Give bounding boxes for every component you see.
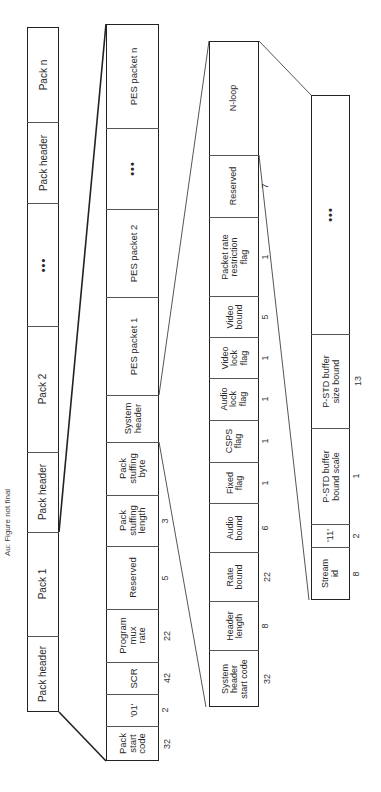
field-label: CSPS flag — [209, 420, 259, 462]
field-label: Pack header — [27, 122, 59, 203]
field-label: '01' — [106, 694, 159, 726]
field-label: PES packet 2 — [106, 209, 159, 297]
field-label: Audio lock flag — [209, 378, 259, 420]
bit-width-label: 1 — [351, 473, 361, 478]
field-label: Packet rate restriction flag — [209, 217, 259, 296]
field-label: System header start code — [209, 650, 259, 707]
mpeg-program-stream-diagram: Au: Figure not final Pack nPack header••… — [0, 0, 381, 792]
bit-width-label: 2 — [160, 707, 170, 712]
field-label: Pack 2 — [27, 326, 59, 452]
bit-width-label: 42 — [162, 673, 172, 683]
field-label: SCR — [106, 662, 159, 694]
field-label: ••• — [311, 95, 350, 334]
field-label: Program mux rate — [106, 609, 159, 662]
field-label: Pack stuffing length — [106, 495, 159, 546]
bit-width-label: 3 — [160, 518, 170, 523]
field-label: System header — [106, 395, 159, 442]
field-label: ••• — [106, 128, 159, 209]
expansion-connector-line — [259, 41, 311, 95]
bit-width-label: 22 — [262, 571, 272, 581]
expansion-connector-line — [59, 24, 106, 532]
bit-width-label: 5 — [260, 314, 270, 319]
field-label: PES packet 1 — [106, 297, 159, 395]
field-label: Reserved — [106, 546, 159, 609]
field-label: PES packet n — [106, 24, 159, 128]
field-label: ••• — [27, 203, 59, 326]
field-label: Pack header — [27, 452, 59, 532]
field-label: N-loop — [209, 41, 259, 155]
bit-width-label: 1 — [260, 355, 270, 360]
field-label: Pack stuffing byte — [106, 442, 159, 495]
field-label: Reserved — [209, 155, 259, 217]
field-label: Stream id — [311, 547, 350, 600]
field-label: Rate bound — [209, 552, 259, 601]
field-label: P-STD buffer size bound — [311, 334, 350, 428]
bit-width-label: 32 — [262, 673, 272, 683]
field-label: '11' — [311, 524, 350, 547]
field-label: Pack n — [27, 27, 59, 122]
bit-width-label: 8 — [351, 571, 361, 576]
bit-width-label: 7 — [260, 183, 270, 188]
field-label: Pack start code — [106, 726, 159, 761]
bit-width-label: 2 — [351, 533, 361, 538]
field-label: Video bound — [209, 296, 259, 337]
expansion-connector-line — [59, 712, 106, 761]
figure-note: Au: Figure not final — [3, 489, 12, 556]
field-label: P-STD buffer bound scale — [311, 428, 350, 524]
bit-width-label: 5 — [160, 575, 170, 580]
field-label: Pack header — [27, 636, 59, 712]
field-label: Header length — [209, 601, 259, 650]
bit-width-label: 6 — [260, 525, 270, 530]
field-label: Video lock flag — [209, 337, 259, 378]
bit-width-label: 32 — [162, 738, 172, 748]
bit-width-label: 8 — [260, 623, 270, 628]
bit-width-label: 1 — [260, 438, 270, 443]
bit-width-label: 1 — [260, 254, 270, 259]
bit-width-label: 13 — [353, 376, 363, 386]
field-label: Pack 1 — [27, 532, 59, 636]
expansion-connector-line — [159, 41, 209, 395]
bit-width-label: 1 — [260, 396, 270, 401]
bit-width-label: 1 — [260, 480, 270, 485]
field-label: Audio bound — [209, 503, 259, 552]
bit-width-label: 22 — [162, 630, 172, 640]
expansion-connector-line — [259, 155, 309, 600]
field-label: Fixed flag — [209, 462, 259, 503]
